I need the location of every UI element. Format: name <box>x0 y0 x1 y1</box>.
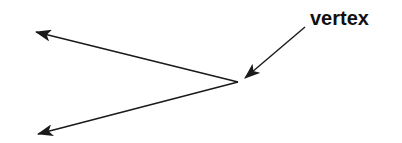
label-pointer-arrow <box>245 27 305 78</box>
upper-ray <box>36 32 238 82</box>
vertex-label: vertex <box>310 6 369 30</box>
lower-ray <box>38 82 238 134</box>
